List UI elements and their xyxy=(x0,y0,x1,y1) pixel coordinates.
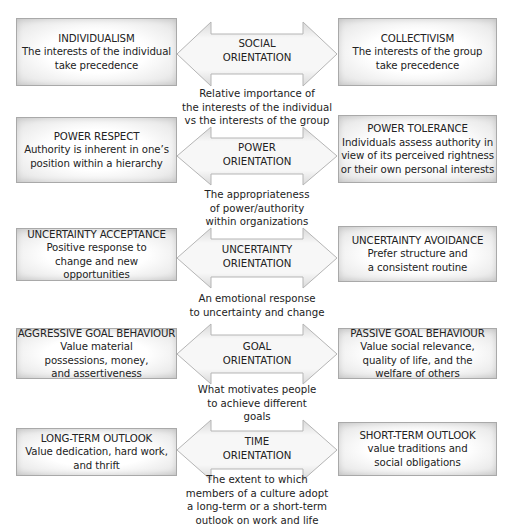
box-collectivism: COLLECTIVISM The interests of the group … xyxy=(338,18,497,86)
description-line: What motivates people xyxy=(170,383,344,397)
box-power-respect: POWER RESPECT Authority is inherent in o… xyxy=(16,117,177,183)
box-text: The interests of the group xyxy=(353,45,483,59)
description-line: The extent to which xyxy=(170,473,344,487)
description-line: outlook on work and life xyxy=(170,514,344,528)
description-time: The extent to which members of a culture… xyxy=(170,473,344,527)
box-title: LONG-TERM OUTLOOK xyxy=(41,432,152,446)
box-text: Positive response to xyxy=(46,241,146,255)
box-short-term-outlook: SHORT-TERM OUTLOOK value traditions and … xyxy=(338,422,497,476)
description-line: to achieve different xyxy=(170,397,344,411)
description-line: Relative importance of xyxy=(170,87,344,101)
box-text: Individuals assess authority in xyxy=(342,136,493,150)
box-title: INDIVIDUALISM xyxy=(58,32,134,46)
arrow-label: ORIENTATION xyxy=(175,155,339,169)
description-line: of power/authority xyxy=(170,202,344,216)
description-power: The appropriateness of power/authority w… xyxy=(170,188,344,229)
box-text: take precedence xyxy=(55,59,138,73)
double-arrow-social: SOCIAL ORIENTATION xyxy=(175,20,339,88)
arrow-label: ORIENTATION xyxy=(175,257,339,271)
arrow-label: TIME xyxy=(175,435,339,449)
box-text: The interests of the individual xyxy=(22,45,171,59)
box-text: and assertiveness xyxy=(51,367,141,381)
box-uncertainty-avoidance: UNCERTAINTY AVOIDANCE Prefer structure a… xyxy=(338,226,497,282)
arrow-label: GOAL xyxy=(175,340,339,354)
description-line: members of a culture adopt xyxy=(170,487,344,501)
box-text: opportunities xyxy=(63,268,129,282)
box-text: view of its perceived rightness xyxy=(341,149,494,163)
box-aggressive-goal-behaviour: AGGRESSIVE GOAL BEHAVIOUR Value material… xyxy=(16,328,177,379)
box-title: COLLECTIVISM xyxy=(381,32,454,46)
box-text: value traditions and xyxy=(367,442,467,456)
description-uncertainty: An emotional response to uncertainty and… xyxy=(170,292,344,319)
box-text: or their own personal interests xyxy=(341,163,494,177)
box-text: possessions, money, xyxy=(45,354,149,368)
box-title: POWER TOLERANCE xyxy=(367,122,468,136)
double-arrow-uncertainty: UNCERTAINTY ORIENTATION xyxy=(175,226,339,290)
arrow-label: ORIENTATION xyxy=(175,354,339,368)
box-uncertainty-acceptance: UNCERTAINTY ACCEPTANCE Positive response… xyxy=(16,228,177,281)
box-text: Prefer structure and xyxy=(367,247,467,261)
box-title: AGGRESSIVE GOAL BEHAVIOUR xyxy=(18,327,176,341)
description-social: Relative importance of the interests of … xyxy=(170,87,344,128)
box-title: SHORT-TERM OUTLOOK xyxy=(359,429,475,443)
description-line: The appropriateness xyxy=(170,188,344,202)
double-arrow-goal: GOAL ORIENTATION xyxy=(175,322,339,386)
box-text: change and new xyxy=(55,255,138,269)
box-text: Value material xyxy=(60,340,132,354)
box-text: Value social relevance, xyxy=(360,340,474,354)
arrow-label: ORIENTATION xyxy=(175,51,339,65)
description-line: to uncertainty and change xyxy=(170,306,344,320)
box-long-term-outlook: LONG-TERM OUTLOOK Value dedication, hard… xyxy=(16,428,177,476)
description-line: An emotional response xyxy=(170,292,344,306)
arrow-label: ORIENTATION xyxy=(175,449,339,463)
box-title: PASSIVE GOAL BEHAVIOUR xyxy=(350,327,484,341)
box-title: POWER RESPECT xyxy=(54,130,140,144)
arrow-label: POWER xyxy=(175,141,339,155)
double-arrow-power: POWER ORIENTATION xyxy=(175,125,339,187)
box-text: position within a hierarchy xyxy=(30,157,163,171)
box-power-tolerance: POWER TOLERANCE Individuals assess autho… xyxy=(338,115,497,183)
arrow-label: UNCERTAINTY xyxy=(175,243,339,257)
description-line: a long-term or a short-term xyxy=(170,500,344,514)
box-text: quality of life, and the xyxy=(363,354,473,368)
box-text: Value dedication, hard work, xyxy=(25,445,168,459)
box-title: UNCERTAINTY AVOIDANCE xyxy=(352,234,484,248)
box-text: Authority is inherent in one’s xyxy=(24,143,169,157)
box-title: UNCERTAINTY ACCEPTANCE xyxy=(27,228,166,242)
box-text: social obligations xyxy=(374,456,460,470)
box-text: take precedence xyxy=(376,59,459,73)
arrow-label: SOCIAL xyxy=(175,37,339,51)
box-text: a consistent routine xyxy=(368,261,467,275)
box-individualism: INDIVIDUALISM The interests of the indiv… xyxy=(16,18,177,86)
description-line: the interests of the individual xyxy=(170,101,344,115)
box-passive-goal-behaviour: PASSIVE GOAL BEHAVIOUR Value social rele… xyxy=(338,328,497,379)
box-text: and thrift xyxy=(73,459,119,473)
box-text: welfare of others xyxy=(375,367,460,381)
